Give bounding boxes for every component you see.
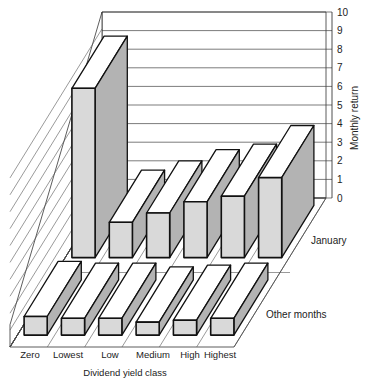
y-tick-label: 2 xyxy=(337,155,343,166)
y-tick-label: 5 xyxy=(337,100,343,111)
dividend-yield-3d-bar-chart: 012345678910 Monthly return Dividend yie… xyxy=(0,0,368,384)
y-tick-label: 3 xyxy=(337,137,343,148)
x-tick-label-zero: Zero xyxy=(20,349,40,360)
bar-front xyxy=(221,196,244,257)
y-tick-label: 1 xyxy=(337,174,343,185)
bar-front xyxy=(61,318,84,335)
bar-front xyxy=(173,320,196,335)
series-label-other-months: Other months xyxy=(266,309,327,320)
bar-front xyxy=(99,318,122,335)
bar-front xyxy=(184,202,207,258)
bar-front xyxy=(72,88,95,257)
bar-front xyxy=(109,222,132,257)
bar-front xyxy=(259,178,282,258)
bar-front xyxy=(147,213,170,258)
series-label-january: January xyxy=(311,235,347,246)
y-axis: 012345678910 xyxy=(332,7,349,204)
y-tick-label: 4 xyxy=(337,118,343,129)
x-tick-label-highest: Highest xyxy=(204,349,237,360)
y-tick-label: 8 xyxy=(337,44,343,55)
x-tick-label-low: Low xyxy=(101,349,119,360)
y-axis-title: Monthly return xyxy=(349,86,360,150)
y-tick-label: 6 xyxy=(337,81,343,92)
y-tick-label: 7 xyxy=(337,62,343,73)
y-tick-label: 9 xyxy=(337,25,343,36)
x-axis-category-labels: ZeroLowestLowMediumHighHighest xyxy=(20,349,236,360)
y-tick-label: 10 xyxy=(337,7,349,18)
x-tick-label-medium: Medium xyxy=(136,349,170,360)
x-tick-label-lowest: Lowest xyxy=(53,349,83,360)
bar-front xyxy=(24,317,47,336)
y-tick-label: 0 xyxy=(337,193,343,204)
x-tick-label-high: High xyxy=(180,349,200,360)
x-axis-title: Dividend yield class xyxy=(83,367,167,378)
bar-front xyxy=(211,318,234,335)
bar-front xyxy=(136,322,159,335)
